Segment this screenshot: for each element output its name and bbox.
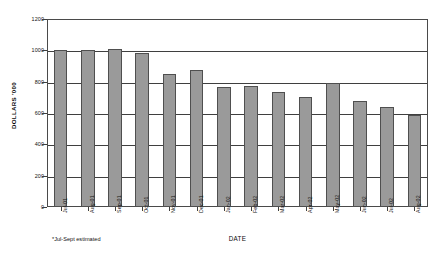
x-tick-label-text: Jul-01 xyxy=(62,198,68,213)
chart-footnote: *Jul-Sept estimated xyxy=(52,236,101,242)
gridline xyxy=(48,114,427,115)
gridline xyxy=(48,177,427,178)
y-tick-label: 600 xyxy=(4,110,44,116)
x-tick-label-text: Jun-02 xyxy=(361,196,367,213)
bar-chart: DOLLARS '000 020040060080010001200 Jul-0… xyxy=(0,0,448,256)
x-tick-label-text: Jul-02 xyxy=(388,198,394,213)
y-tick-label: 1000 xyxy=(4,47,44,53)
x-tick-label-text: Feb-02 xyxy=(252,196,258,213)
y-tick-label: 800 xyxy=(4,79,44,85)
x-tick-label-text: Aug-02 xyxy=(415,195,421,213)
x-axis-title: DATE xyxy=(47,235,428,242)
gridline xyxy=(48,51,427,52)
y-tick-label: 1200 xyxy=(4,16,44,22)
x-tick-label-text: Mar-02 xyxy=(279,196,285,213)
plot-area xyxy=(47,19,428,207)
x-tick-label-text: Aug-01 xyxy=(89,195,95,213)
x-tick-label-text: May-02 xyxy=(334,195,340,213)
y-tick-mark xyxy=(42,207,47,208)
y-tick-label: 0 xyxy=(4,204,44,210)
y-tick-label: 200 xyxy=(4,173,44,179)
x-tick-label-text: Nov-01 xyxy=(170,195,176,213)
x-tick-label-text: Oct-01 xyxy=(143,197,149,214)
gridline xyxy=(48,83,427,84)
y-tick-label: 400 xyxy=(4,141,44,147)
x-tick-label-text: Sep-01 xyxy=(116,195,122,213)
gridline xyxy=(48,145,427,146)
y-axis-title-label: DOLLARS '000 xyxy=(11,81,18,128)
x-tick-label-text: Apr-02 xyxy=(307,197,313,214)
x-tick-label-text: Jan-02 xyxy=(225,196,231,213)
x-tick-label-text: Dec-01 xyxy=(198,195,204,213)
